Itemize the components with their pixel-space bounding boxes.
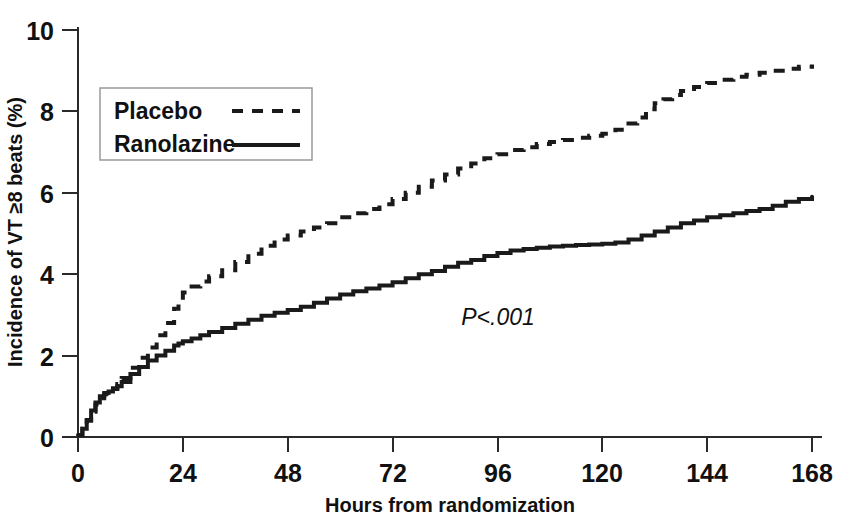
p-value-annotation: P<.001: [461, 304, 535, 330]
x-tick-label-120: 120: [581, 459, 623, 487]
y-tick-label-4: 4: [40, 261, 54, 289]
x-tick-label-72: 72: [379, 459, 407, 487]
y-tick-label-2: 2: [40, 343, 54, 371]
x-tick-label-0: 0: [71, 459, 85, 487]
incidence-line-chart: 10 8 6 4 2 0 0 24 48 72 96 120: [0, 0, 842, 521]
x-tick-label-96: 96: [484, 459, 512, 487]
y-tick-label-6: 6: [40, 180, 54, 208]
legend: Placebo Ranolazine: [100, 88, 312, 160]
legend-label-placebo: Placebo: [114, 98, 202, 124]
x-tick-label-24: 24: [169, 459, 197, 487]
x-axis-title: Hours from randomization: [325, 494, 575, 516]
y-tick-label-8: 8: [40, 98, 54, 126]
series-line-ranolazine: [78, 197, 812, 435]
y-tick-label-0: 0: [40, 424, 54, 452]
x-tick-label-48: 48: [274, 459, 302, 487]
x-tick-label-168: 168: [791, 459, 833, 487]
y-axis-title: Incidence of VT ≥8 beats (%): [4, 97, 26, 367]
legend-label-ranolazine: Ranolazine: [114, 131, 235, 157]
x-tick-label-144: 144: [686, 459, 728, 487]
x-axis-ticks: 0 24 48 72 96 120 144 168: [71, 437, 833, 487]
y-tick-label-10: 10: [26, 17, 54, 45]
y-axis-ticks: 10 8 6 4 2 0: [26, 17, 78, 452]
figure-container: 10 8 6 4 2 0 0 24 48 72 96 120: [0, 0, 842, 521]
